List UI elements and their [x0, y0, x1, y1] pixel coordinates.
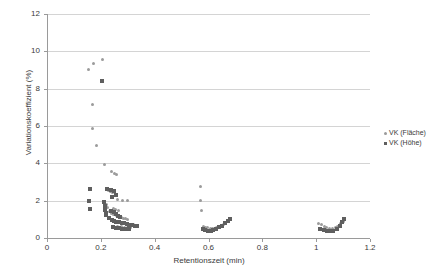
- y-tick-label: 10: [18, 46, 40, 55]
- y-tick-mark: [44, 14, 47, 15]
- legend-item-hoehe: VK (Höhe): [384, 138, 426, 148]
- gridline-y: [47, 89, 370, 90]
- gridline-y: [47, 14, 370, 15]
- x-tick-label: 0.2: [86, 243, 116, 253]
- y-tick-label: 6: [18, 121, 40, 130]
- legend-item-flaeche: VK (Fläche): [384, 128, 426, 138]
- y-tick-label: 12: [18, 9, 40, 18]
- legend-label-flaeche: VK (Fläche): [389, 128, 426, 138]
- y-tick-label: 4: [18, 158, 40, 167]
- x-tick-mark: [101, 239, 102, 242]
- y-tick-label: 8: [18, 84, 40, 93]
- y-tick-mark: [44, 51, 47, 52]
- chart-legend: VK (Fläche) VK (Höhe): [384, 128, 426, 148]
- legend-marker-diamond-icon: [384, 132, 387, 135]
- gridline-y: [47, 201, 370, 202]
- y-tick-label: 2: [18, 196, 40, 205]
- x-tick-label: 0.4: [140, 243, 170, 253]
- legend-marker-square-icon: [384, 142, 387, 145]
- x-tick-mark: [47, 239, 48, 242]
- gridline-y: [47, 51, 370, 52]
- x-tick-mark: [262, 239, 263, 242]
- gridline-y: [47, 126, 370, 127]
- y-tick-label: 0: [18, 233, 40, 242]
- legend-label-hoehe: VK (Höhe): [389, 138, 422, 148]
- gridline-y: [47, 163, 370, 164]
- y-tick-mark: [44, 201, 47, 202]
- x-tick-label: 0.8: [247, 243, 277, 253]
- x-axis-label: Retentionszeit (min): [0, 256, 418, 265]
- x-tick-mark: [209, 239, 210, 242]
- y-axis-line: [47, 14, 48, 239]
- x-tick-label: 0: [32, 243, 62, 253]
- y-tick-mark: [44, 126, 47, 127]
- x-tick-label: 1.2: [355, 243, 385, 253]
- scatter-chart: Retentionszeit (min) Variationskoeffizie…: [0, 0, 442, 280]
- y-tick-mark: [44, 89, 47, 90]
- x-tick-mark: [370, 239, 371, 242]
- x-tick-label: 1: [301, 243, 331, 253]
- x-tick-mark: [316, 239, 317, 242]
- x-tick-label: 0.6: [194, 243, 224, 253]
- plot-area: [47, 14, 370, 238]
- y-tick-mark: [44, 163, 47, 164]
- x-tick-mark: [155, 239, 156, 242]
